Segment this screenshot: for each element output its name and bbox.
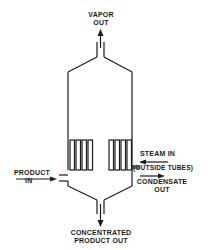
- outside-tubes-label: (OUTSIDE TUBES): [133, 164, 193, 172]
- steam-in-label: STEAM IN: [140, 150, 175, 158]
- condensate-label-line1: CONDENSATE: [136, 178, 188, 186]
- product-label-line1: PRODUCT: [14, 169, 50, 177]
- condensate-label-line2: OUT: [136, 186, 188, 194]
- concentrated-label-line2: PRODUCT OUT: [60, 237, 142, 245]
- vapor-label-line2: OUT: [86, 19, 116, 27]
- left-tube-bundle: [70, 140, 93, 170]
- vessel-bottom-cone: [68, 186, 132, 200]
- outside-tubes-text: (OUTSIDE TUBES): [133, 164, 193, 171]
- concentrated-product-out-arrow-icon: [98, 204, 104, 227]
- vapor-out-arrow-icon: [98, 29, 104, 48]
- steam-in-text: STEAM IN: [140, 150, 175, 157]
- product-label-line2: IN: [14, 177, 50, 185]
- evaporator-diagram: [0, 0, 210, 250]
- vapor-out-label: VAPOR OUT: [86, 11, 116, 27]
- product-inlet-pipe: [59, 175, 68, 181]
- vapor-label-line1: VAPOR: [86, 11, 116, 19]
- condensate-out-label: CONDENSATE OUT: [136, 178, 188, 194]
- concentrated-product-out-label: CONCENTRATED PRODUCT OUT: [60, 229, 142, 245]
- right-tube-bundle: [109, 140, 132, 170]
- concentrated-label-line1: CONCENTRATED: [60, 229, 142, 237]
- vessel-top-cone: [68, 57, 132, 72]
- vessel-body: [68, 72, 132, 186]
- product-in-label: PRODUCT IN: [14, 169, 50, 185]
